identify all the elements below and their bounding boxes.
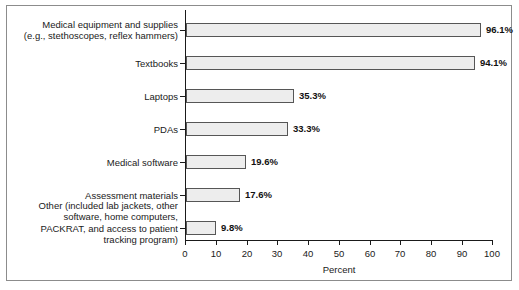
bar-value-label: 17.6%: [245, 188, 272, 202]
bar-row: PDAs 33.3%: [0, 106, 519, 139]
x-axis-tick-label: 20: [232, 248, 262, 259]
y-axis-tick: [180, 96, 185, 97]
y-axis-tick: [180, 195, 185, 196]
y-axis-tick: [180, 63, 185, 64]
x-axis-tick: [277, 241, 278, 245]
bar[interactable]: [186, 188, 240, 202]
x-axis-tick-label: 60: [355, 248, 385, 259]
x-axis-tick-label: 90: [447, 248, 477, 259]
x-axis-tick: [400, 241, 401, 245]
bar-chart: Medical equipment and supplies (e.g., st…: [0, 0, 519, 290]
category-label: Laptops: [6, 91, 178, 102]
bar-value-label: 35.3%: [299, 89, 326, 103]
category-label: Medical equipment and supplies (e.g., st…: [6, 19, 178, 42]
y-axis-tick: [180, 129, 185, 130]
bar-value-label: 9.8%: [221, 221, 243, 235]
bar[interactable]: [186, 89, 294, 103]
category-label: Medical software: [6, 157, 178, 168]
x-axis-tick-label: 10: [201, 248, 231, 259]
bar-row: Laptops 35.3%: [0, 73, 519, 106]
x-axis-tick: [247, 241, 248, 245]
x-axis-tick: [308, 241, 309, 245]
x-axis-tick: [370, 241, 371, 245]
bar-row: Medical software 19.6%: [0, 139, 519, 172]
x-axis-tick-label: 70: [385, 248, 415, 259]
x-axis-tick-label: 0: [170, 248, 200, 259]
bar[interactable]: [186, 122, 288, 136]
x-axis-tick: [431, 241, 432, 245]
figure: Medical equipment and supplies (e.g., st…: [0, 0, 519, 290]
bar-row: Medical equipment and supplies (e.g., st…: [0, 7, 519, 40]
bar-row: Other (included lab jackets, other softw…: [0, 205, 519, 238]
y-axis-tick: [180, 30, 185, 31]
x-axis-tick-label: 40: [293, 248, 323, 259]
category-label: Other (included lab jackets, other softw…: [6, 200, 178, 246]
bar-value-label: 19.6%: [251, 155, 278, 169]
bar[interactable]: [186, 56, 475, 70]
x-axis-tick: [339, 241, 340, 245]
x-axis-title: Percent: [185, 264, 493, 275]
x-axis-tick-label: 80: [416, 248, 446, 259]
x-axis-tick-label: 50: [324, 248, 354, 259]
bar[interactable]: [186, 221, 216, 235]
x-axis-tick-label: 30: [262, 248, 292, 259]
y-axis-tick: [180, 162, 185, 163]
category-label: PDAs: [6, 124, 178, 135]
bar-row: Textbooks 94.1%: [0, 40, 519, 73]
y-axis-tick: [180, 228, 185, 229]
bar[interactable]: [186, 155, 246, 169]
x-axis-tick-label: 100: [477, 248, 507, 259]
x-axis-tick: [185, 241, 186, 245]
x-axis-tick: [216, 241, 217, 245]
bar-value-label: 33.3%: [293, 122, 320, 136]
bar-value-label: 96.1%: [486, 23, 513, 37]
bar-value-label: 94.1%: [480, 56, 507, 70]
x-axis-tick: [492, 241, 493, 245]
x-axis-tick: [462, 241, 463, 245]
category-label: Textbooks: [6, 58, 178, 69]
bar[interactable]: [186, 23, 481, 37]
